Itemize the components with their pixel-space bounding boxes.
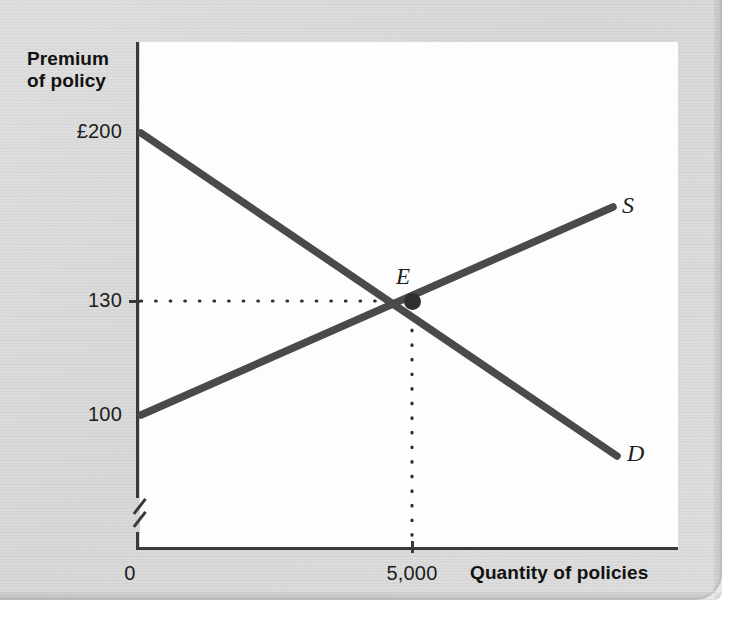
y-axis-title: Premium of policy	[27, 48, 131, 93]
equilibrium-point-label: E	[396, 264, 410, 290]
supply-demand-chart-figure: £200 130 100 0 5,000 Premium of policy Q…	[0, 0, 738, 618]
equilibrium-point-marker	[404, 293, 421, 310]
x-tick-label-5000: 5,000	[357, 562, 467, 585]
y-tick-label-200: £200	[20, 120, 122, 143]
demand-curve-label: D	[627, 440, 644, 467]
panel-bottom-edge	[0, 592, 722, 600]
x-axis-line	[136, 547, 678, 550]
supply-curve-label: S	[622, 192, 634, 219]
x-axis-title: Quantity of policies	[470, 562, 648, 584]
y-tick-mark-130	[129, 300, 140, 303]
y-axis-break-icon	[128, 498, 150, 532]
y-tick-label-130: 130	[20, 289, 122, 312]
y-tick-label-100: 100	[20, 403, 122, 426]
y-axis-line	[136, 42, 139, 550]
panel-right-edge	[714, 0, 722, 600]
x-tick-mark-5000	[411, 541, 414, 553]
origin-label: 0	[100, 562, 160, 585]
